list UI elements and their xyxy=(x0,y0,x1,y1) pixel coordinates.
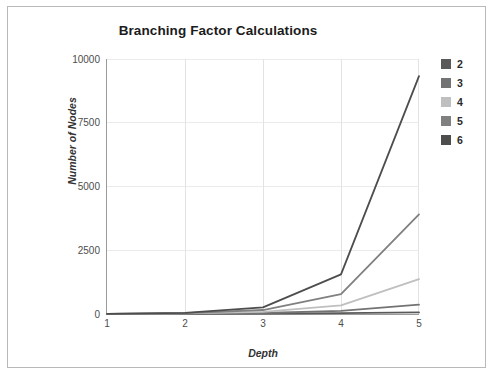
legend-item[interactable]: 5 xyxy=(441,111,489,130)
y-axis-title: Number of Nodes xyxy=(66,71,78,211)
legend-item[interactable]: 4 xyxy=(441,92,489,111)
legend-swatch-icon xyxy=(441,97,451,107)
legend-item-label: 5 xyxy=(457,115,463,127)
x-axis-title: Depth xyxy=(163,347,363,359)
x-tick-label: 1 xyxy=(87,318,127,329)
legend-item[interactable]: 3 xyxy=(441,73,489,92)
legend-swatch-icon xyxy=(441,78,451,88)
y-tick-label: 10000 xyxy=(38,54,100,65)
legend-swatch-icon xyxy=(441,116,451,126)
plot-area xyxy=(107,59,419,314)
x-tick-label: 3 xyxy=(243,318,283,329)
chart-title: Branching Factor Calculations xyxy=(8,23,428,38)
legend-item-label: 6 xyxy=(457,134,463,146)
legend-item[interactable]: 6 xyxy=(441,130,489,149)
legend-item-label: 4 xyxy=(457,96,463,108)
x-tick-label: 2 xyxy=(165,318,205,329)
chart-frame: Branching Factor Calculations 10000 7500… xyxy=(7,6,486,368)
legend-swatch-icon xyxy=(441,59,451,69)
x-tick-label: 5 xyxy=(399,318,439,329)
series-line-6 xyxy=(107,76,419,314)
legend-item[interactable]: 2 xyxy=(441,54,489,73)
series-lines xyxy=(107,59,419,314)
legend-item-label: 3 xyxy=(457,77,463,89)
legend-item-label: 2 xyxy=(457,58,463,70)
series-line-5 xyxy=(107,214,419,313)
y-tick-label: 2500 xyxy=(38,245,100,256)
legend-swatch-icon xyxy=(441,135,451,145)
legend: 2 3 4 5 6 xyxy=(441,54,489,149)
x-tick-label: 4 xyxy=(321,318,361,329)
